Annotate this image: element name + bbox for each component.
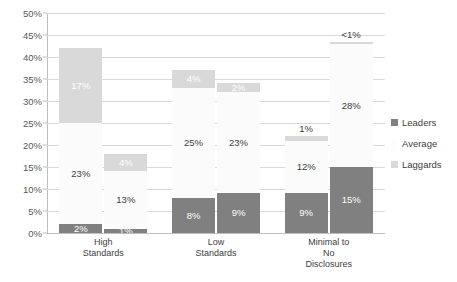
y-axis-tick-mark <box>43 35 47 36</box>
bar-segment-label: 9% <box>299 208 313 218</box>
bar-segment-label: 17% <box>71 81 90 91</box>
bar-segment-label: 2% <box>232 83 246 93</box>
y-axis-tick-mark <box>43 57 47 58</box>
category-label-line: Low <box>160 237 273 248</box>
y-axis-tick-mark <box>43 189 47 190</box>
bar-segment-label: 13% <box>116 195 135 205</box>
y-axis-tick-label: 40% <box>2 52 42 63</box>
bar-segment[interactable]: 8% <box>172 198 215 233</box>
bar-segment[interactable]: 9% <box>285 193 328 233</box>
bar-segment[interactable]: 23% <box>217 92 260 193</box>
y-axis-tick-label: 0% <box>2 228 42 239</box>
bar-segment-label: <1% <box>342 30 361 40</box>
legend-item-laggards[interactable]: Laggards <box>391 154 457 175</box>
bar-segment-label: 12% <box>297 162 316 172</box>
x-axis-category-label: LowStandards <box>160 237 273 259</box>
legend-label: Average <box>402 138 437 149</box>
bar-segment[interactable]: 15% <box>330 167 373 233</box>
legend-swatch <box>391 161 398 168</box>
y-axis-tick-mark <box>43 13 47 14</box>
x-axis-category-labels: HighStandardsLowStandardsMinimal toNoDis… <box>47 237 385 279</box>
legend-swatch <box>391 119 398 126</box>
bar[interactable]: 9%23%2% <box>217 83 260 233</box>
y-axis-tick-label: 25% <box>2 118 42 129</box>
y-axis-tick-label: 35% <box>2 74 42 85</box>
gridline <box>47 13 385 14</box>
bar-segment-label: 8% <box>187 211 201 221</box>
y-axis-tick-mark <box>43 145 47 146</box>
legend-label: Leaders <box>402 117 436 128</box>
plot-area: 2%23%17%1%13%4%8%25%4%9%23%2%1%9%12%<1%1… <box>47 13 385 233</box>
category-label-line: High <box>47 237 160 248</box>
bar-segment[interactable]: 4% <box>104 154 147 172</box>
y-axis-tick-label: 15% <box>2 162 42 173</box>
y-axis-tick-label: 45% <box>2 30 42 41</box>
legend-swatch <box>391 140 398 147</box>
bar-segment-label: 9% <box>232 208 246 218</box>
bar-segment-label: 23% <box>71 169 90 179</box>
x-axis-category-label: Minimal toNoDisclosures <box>272 237 385 270</box>
y-axis-tick-label: 30% <box>2 96 42 107</box>
bar-segment-label: 1% <box>299 124 313 134</box>
y-axis-tick-mark <box>43 211 47 212</box>
bar-segment-label: 4% <box>187 74 201 84</box>
bar-segment[interactable]: 2% <box>217 83 260 92</box>
bar-segment[interactable]: 25% <box>172 88 215 198</box>
y-axis-tick-label: 20% <box>2 140 42 151</box>
legend-label: Laggards <box>402 159 442 170</box>
y-axis-tick-mark <box>43 101 47 102</box>
category-label-line: Standards <box>47 248 160 259</box>
bar-segment-label: 23% <box>229 138 248 148</box>
category-label-line: No <box>272 248 385 259</box>
bar-segment-label: 4% <box>119 158 133 168</box>
bar-segment-label: 25% <box>184 138 203 148</box>
bar-segment[interactable]: 13% <box>104 171 147 228</box>
bar[interactable]: 9%12% <box>285 136 328 233</box>
bar-segment[interactable]: 28% <box>330 44 373 167</box>
category-label-line: Minimal to <box>272 237 385 248</box>
y-axis: 0%5%10%15%20%25%30%35%40%45%50% <box>0 13 42 234</box>
bar-segment[interactable] <box>285 136 328 140</box>
y-axis-tick-mark <box>43 79 47 80</box>
x-axis-line <box>47 233 385 234</box>
stacked-column-chart: 0%5%10%15%20%25%30%35%40%45%50% 2%23%17%… <box>0 0 457 282</box>
bar-segment[interactable]: 9% <box>217 193 260 233</box>
y-axis-tick-label: 10% <box>2 184 42 195</box>
y-axis-tick-mark <box>43 233 47 234</box>
bar-segment[interactable]: 12% <box>285 141 328 194</box>
category-label-line: Disclosures <box>272 259 385 270</box>
bar-segment[interactable]: 2% <box>59 224 102 233</box>
x-axis-category-label: HighStandards <box>47 237 160 259</box>
legend-item-average[interactable]: Average <box>391 133 457 154</box>
y-axis-tick-mark <box>43 123 47 124</box>
bar[interactable]: 1%13%4% <box>104 154 147 233</box>
y-axis-tick-mark <box>43 167 47 168</box>
gridline <box>47 35 385 36</box>
bar-segment-label: 15% <box>342 195 361 205</box>
bar[interactable]: 15%28% <box>330 44 373 233</box>
bar[interactable]: 8%25%4% <box>172 70 215 233</box>
bar-segment[interactable] <box>330 42 373 44</box>
bar-segment[interactable]: 23% <box>59 123 102 224</box>
y-axis-tick-label: 5% <box>2 206 42 217</box>
bar-segment[interactable]: 4% <box>172 70 215 88</box>
chart-legend: LeadersAverageLaggards <box>391 112 457 175</box>
bar-segment-label: 2% <box>74 224 88 234</box>
bar[interactable]: 2%23%17% <box>59 48 102 233</box>
bar-segment-label: 28% <box>342 101 361 111</box>
category-label-line: Standards <box>160 248 273 259</box>
y-axis-tick-label: 50% <box>2 8 42 19</box>
bar-segment[interactable]: 17% <box>59 48 102 123</box>
legend-item-leaders[interactable]: Leaders <box>391 112 457 133</box>
